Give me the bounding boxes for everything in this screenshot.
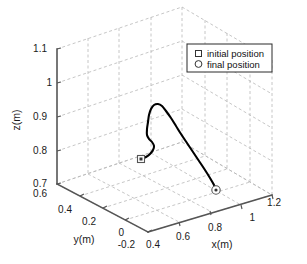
z-tick-label-1: 1 — [46, 77, 52, 88]
z-tick-label-0: 1.1 — [33, 43, 47, 54]
y-axis-title: y(m) — [74, 233, 95, 245]
x-tick-label-4: 1.2 — [267, 197, 281, 208]
plot-figure: 1.110.90.80.70.6 0.40.20-0.2 0.40.60.811… — [0, 0, 307, 264]
z-axis-tick-labels: 1.110.90.80.70.6 — [33, 43, 52, 199]
initial-position-marker — [138, 156, 145, 163]
z-tick-label-2: 0.9 — [33, 111, 47, 122]
legend: initial position final position — [187, 44, 272, 72]
grid-left-wall — [57, 7, 182, 184]
x-tick-label-1: 0.6 — [176, 231, 190, 242]
legend-label-final-position: final position — [207, 59, 260, 70]
y-tick-label-1: 0.2 — [82, 216, 96, 227]
square-icon — [196, 51, 202, 57]
y-tick-label-3: -0.2 — [118, 239, 136, 250]
z-tick-label-3: 0.8 — [33, 145, 47, 156]
x-tick-label-0: 0.4 — [146, 239, 160, 250]
final-position-marker — [212, 186, 220, 194]
z-tick-label-5: 0.6 — [33, 188, 47, 199]
z-axis-title: z(m) — [10, 110, 22, 131]
x-tick-label-3: 1 — [249, 212, 255, 223]
legend-label-initial-position: initial position — [207, 48, 264, 59]
circle-icon — [195, 61, 202, 68]
y-axis-tick-labels: 0.40.20-0.2 — [58, 204, 135, 250]
x-axis-title: x(m) — [212, 238, 233, 250]
x-tick-label-2: 0.8 — [208, 222, 222, 233]
grid-right-wall — [182, 7, 272, 195]
plot-canvas: 1.110.90.80.70.6 0.40.20-0.2 0.40.60.811… — [0, 0, 307, 264]
y-tick-label-0: 0.4 — [58, 204, 72, 215]
y-tick-label-2: 0 — [118, 227, 124, 238]
